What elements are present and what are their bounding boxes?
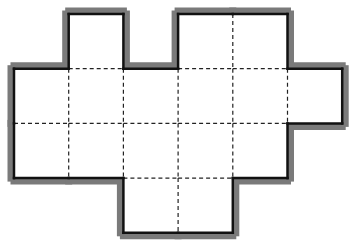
polyomino-diagram <box>0 0 351 249</box>
